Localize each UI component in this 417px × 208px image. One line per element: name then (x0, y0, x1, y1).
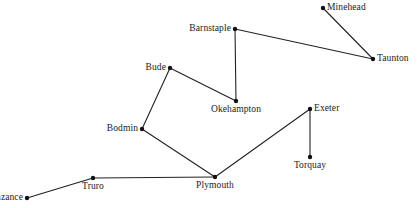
graph-edge (142, 129, 215, 177)
graph-edge (170, 68, 236, 101)
node-label-okehampton: Okehampton (211, 105, 261, 115)
graph-edge (142, 68, 170, 129)
node-label-torquay: Torquay (294, 161, 326, 171)
graph-node-exeter[interactable] (308, 107, 312, 111)
graph-node-plymouth[interactable] (213, 175, 217, 179)
node-label-bodmin: Bodmin (107, 124, 138, 134)
graph-edge (235, 29, 236, 101)
graph-node-bude[interactable] (168, 66, 172, 70)
graph-node-truro[interactable] (91, 176, 95, 180)
network-diagram: MineheadTauntonBarnstapleOkehamptonBudeB… (0, 0, 417, 208)
graph-node-taunton[interactable] (371, 57, 375, 61)
node-label-exeter: Exeter (314, 104, 339, 114)
graph-node-torquay[interactable] (308, 155, 312, 159)
node-label-barnstaple: Barnstaple (189, 24, 231, 34)
graph-node-barnstaple[interactable] (233, 27, 237, 31)
graph-node-okehampton[interactable] (234, 99, 238, 103)
node-label-penzance: Penzance (0, 193, 23, 203)
node-label-bude: Bude (146, 63, 166, 73)
graph-node-penzance[interactable] (25, 196, 29, 200)
graph-node-minehead[interactable] (321, 6, 325, 10)
node-label-minehead: Minehead (327, 3, 366, 13)
node-label-taunton: Taunton (377, 54, 409, 64)
graph-edge (323, 8, 373, 59)
node-label-truro: Truro (82, 182, 104, 192)
graph-edge (93, 177, 215, 178)
node-label-plymouth: Plymouth (196, 181, 234, 191)
graph-edge (235, 29, 373, 59)
graph-node-bodmin[interactable] (140, 127, 144, 131)
